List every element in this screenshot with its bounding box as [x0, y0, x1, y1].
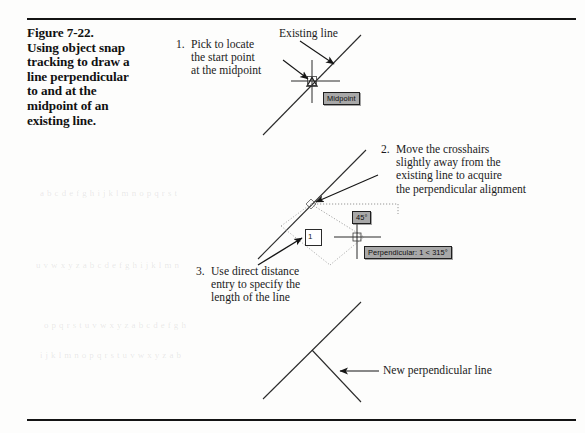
step-3-line: Use direct distance	[211, 265, 299, 278]
step-1-line: at the midpoint	[191, 64, 261, 77]
direct-distance-entry-value: 1	[308, 230, 312, 243]
step-3: 3. Use direct distance entry to specify …	[196, 265, 324, 305]
step-3-text: Use direct distance entry to specify the…	[211, 265, 324, 305]
step-2-line: existing line to acquire	[396, 169, 502, 182]
step-2-line: slightly away from the	[396, 156, 501, 169]
step-2: 2. Move the crosshairs slightly away fro…	[381, 143, 533, 196]
step-3-line: length of the line	[211, 291, 290, 304]
diagram-3-result	[263, 302, 379, 402]
construction-line-left	[281, 204, 311, 226]
leader-step-1	[283, 60, 308, 79]
tooltip-angle: 45°	[352, 211, 371, 224]
leader-step-3	[258, 238, 302, 265]
new-perpendicular-line	[312, 350, 361, 402]
leader-step-2	[316, 175, 378, 202]
tooltip-perpendicular: Perpendicular: 1 < 315°	[364, 246, 452, 259]
step-2-number: 2.	[381, 143, 392, 196]
leader-existing-line	[300, 41, 334, 64]
step-1-number: 1.	[176, 38, 187, 78]
direct-distance-entry-box[interactable]: 1	[305, 229, 322, 246]
label-existing-line: Existing line	[279, 27, 338, 40]
step-1-text: Pick to locate the start point at the mi…	[191, 38, 280, 78]
step-1-line: the start point	[191, 51, 255, 64]
step-1: 1. Pick to locate the start point at the…	[176, 38, 280, 78]
step-2-line: the perpendicular alignment	[396, 183, 526, 196]
step-3-number: 3.	[196, 265, 207, 305]
figure-page: a b c d e f g h i j k l m n o p q r s t …	[0, 0, 585, 433]
label-new-perpendicular-line: New perpendicular line	[383, 364, 492, 377]
tooltip-midpoint: Midpoint	[323, 92, 360, 105]
step-2-text: Move the crosshairs slightly away from t…	[396, 143, 533, 196]
step-2-line: Move the crosshairs	[396, 143, 489, 156]
figure-artwork	[0, 0, 585, 433]
step-1-line: Pick to locate	[191, 38, 254, 51]
step-3-line: entry to specify the	[211, 278, 300, 291]
